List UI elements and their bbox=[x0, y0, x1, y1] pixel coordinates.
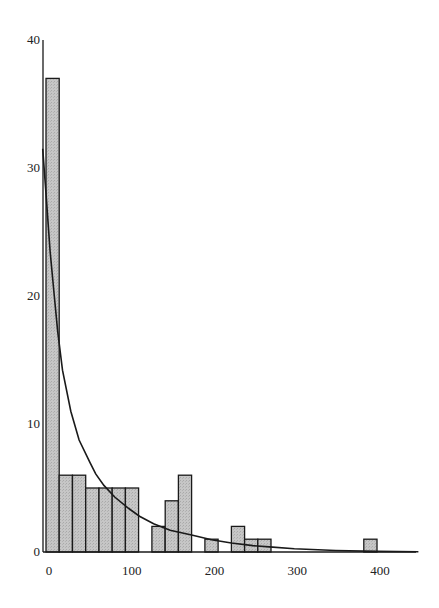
histogram-bar bbox=[59, 475, 72, 552]
histogram-bar bbox=[152, 526, 165, 552]
x-tick-label: 400 bbox=[370, 563, 390, 578]
histogram-bar bbox=[165, 501, 178, 552]
x-tick-label: 200 bbox=[205, 563, 225, 578]
histogram-bar bbox=[86, 488, 99, 552]
histogram-bar bbox=[231, 526, 244, 552]
y-tick-label: 20 bbox=[27, 288, 40, 303]
y-tick-labels: 010203040 bbox=[27, 32, 40, 559]
histogram-bar bbox=[46, 78, 59, 552]
histogram-bar bbox=[125, 488, 138, 552]
histogram-bars bbox=[46, 78, 377, 552]
x-tick-label: 0 bbox=[46, 563, 53, 578]
histogram-chart: 0100200300400 010203040 bbox=[0, 0, 439, 608]
histogram-bar bbox=[99, 488, 112, 552]
histogram-bar bbox=[178, 475, 191, 552]
x-tick-label: 100 bbox=[122, 563, 142, 578]
y-tick-label: 40 bbox=[27, 32, 40, 47]
y-tick-label: 10 bbox=[27, 416, 40, 431]
x-tick-labels: 0100200300400 bbox=[46, 563, 390, 578]
x-tick-label: 300 bbox=[288, 563, 308, 578]
y-tick-label: 0 bbox=[34, 544, 41, 559]
histogram-bar bbox=[364, 539, 377, 552]
histogram-bar bbox=[73, 475, 86, 552]
y-tick-label: 30 bbox=[27, 160, 40, 175]
